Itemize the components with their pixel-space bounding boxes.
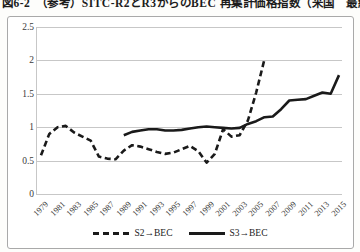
y-axis-tick-label: 2 bbox=[10, 55, 34, 65]
x-axis-tick-label: 2011 bbox=[296, 199, 315, 218]
y-axis-tick-label: 0.5 bbox=[10, 156, 34, 166]
legend-label-s2: S2→BEC bbox=[134, 228, 172, 238]
x-axis-tick-label: 2001 bbox=[213, 199, 232, 218]
x-axis-tick-label: 1983 bbox=[64, 199, 83, 218]
legend: S2→BEC S3→BEC bbox=[8, 223, 353, 243]
plot-area bbox=[37, 21, 343, 197]
y-axis-tick-label: 1 bbox=[10, 122, 34, 132]
x-axis-tick-label: 2003 bbox=[230, 199, 249, 218]
legend-item-s2: S2→BEC bbox=[93, 228, 172, 238]
x-axis-tick-label: 1989 bbox=[114, 199, 133, 218]
x-axis-tick-label: 1999 bbox=[197, 199, 216, 218]
y-axis-tick-label: 1.5 bbox=[10, 89, 34, 99]
x-axis-tick-label: 1985 bbox=[81, 199, 100, 218]
figure-page: { "figure": { "title": "図6-2 （参考）SITC-R2… bbox=[0, 0, 360, 252]
x-axis-tick-label: 1987 bbox=[97, 199, 116, 218]
x-axis-tick-label: 2013 bbox=[312, 199, 331, 218]
x-axis-tick-label: 1991 bbox=[130, 199, 149, 218]
x-axis-tick-label: 1995 bbox=[163, 199, 182, 218]
series-line-s3-bec bbox=[124, 75, 339, 135]
x-axis-tick-label: 1981 bbox=[48, 199, 67, 218]
x-axis-tick-label: 2007 bbox=[263, 199, 282, 218]
legend-item-s3: S3→BEC bbox=[189, 228, 268, 238]
y-axis-tick-label: 0 bbox=[10, 189, 34, 199]
series-line-s2-bec bbox=[41, 59, 265, 163]
solid-line-swatch bbox=[189, 232, 225, 235]
chart-area: 2.521.510.50 197919811983198519871989199… bbox=[7, 16, 354, 249]
chart-title: 図6-2 （参考）SITC-R2とR3からのBEC 再集計価格指数（米国 最終財… bbox=[2, 0, 360, 10]
y-axis-tick-label: 2.5 bbox=[10, 22, 34, 32]
x-axis-tick-label: 2015 bbox=[329, 199, 348, 218]
x-axis-tick-label: 1979 bbox=[31, 199, 50, 218]
x-axis-tick-label: 2005 bbox=[246, 199, 265, 218]
x-axis-tick-label: 2009 bbox=[279, 199, 298, 218]
dashed-line-swatch bbox=[93, 232, 129, 235]
x-axis-tick-label: 1993 bbox=[147, 199, 166, 218]
legend-label-s3: S3→BEC bbox=[230, 228, 268, 238]
x-axis-tick-label: 1997 bbox=[180, 199, 199, 218]
